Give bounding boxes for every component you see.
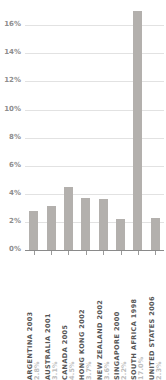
category-label: NEW ZEALAND 2002 <box>96 300 104 380</box>
x-axis-column: 3.1%AUSTRALIA 2001 <box>42 251 59 380</box>
category-label: AUSTRALIA 2001 <box>44 313 52 380</box>
x-tick-mark <box>103 251 104 255</box>
y-tick-label: 16% <box>0 21 21 28</box>
x-axis-column: 3.7%HONG KONG 2002 <box>77 251 94 380</box>
category-label: HONG KONG 2002 <box>78 309 86 380</box>
x-axis-column: 2.8%ARGENTINA 2003 <box>25 251 42 380</box>
gridline <box>25 81 164 82</box>
y-tick-label: 12% <box>0 77 21 84</box>
x-axis-column: 2.3%UNITED STATES 2006 <box>147 251 164 380</box>
x-axis-labels: 2.8%ARGENTINA 20033.1%AUSTRALIA 20014.5%… <box>25 251 164 380</box>
bar <box>99 199 108 250</box>
y-tick-label: 0% <box>0 246 21 253</box>
x-tick-mark <box>51 251 52 255</box>
category-label: SOUTH AFRICA 1998 <box>130 299 138 380</box>
bar-value-label: 4.5% <box>68 361 76 380</box>
bar <box>64 187 73 250</box>
y-tick-label: 6% <box>0 162 21 169</box>
category-label: SINGAPORE 2000 <box>113 311 121 380</box>
x-axis-column: 4.5%CANADA 2005 <box>60 251 77 380</box>
x-tick-mark <box>86 251 87 255</box>
bar-value-label: 2.2% <box>120 361 128 380</box>
category-label: CANADA 2005 <box>61 325 69 380</box>
bar <box>29 211 38 250</box>
x-tick-mark <box>121 251 122 255</box>
x-axis-column: 2.2%SINGAPORE 2000 <box>112 251 129 380</box>
y-tick-label: 8% <box>0 134 21 141</box>
bar <box>81 198 90 250</box>
x-tick-mark <box>155 251 156 255</box>
bar-value-label: 2.3% <box>155 361 163 380</box>
x-axis-column: 17.0%SOUTH AFRICA 1998 <box>129 251 146 380</box>
y-tick-label: 2% <box>0 218 21 225</box>
bar <box>133 11 142 250</box>
gridline <box>25 138 164 139</box>
bar <box>116 219 125 250</box>
gridline <box>25 25 164 26</box>
y-tick-label: 10% <box>0 106 21 113</box>
x-tick-mark <box>138 251 139 255</box>
gridline <box>25 166 164 167</box>
bar-value-label: 3.7% <box>85 361 93 380</box>
y-tick-label: 4% <box>0 190 21 197</box>
bar <box>151 218 160 250</box>
x-axis-column: 3.6%NEW ZEALAND 2002 <box>95 251 112 380</box>
bar-value-label: 2.8% <box>33 361 41 380</box>
category-label: UNITED STATES 2006 <box>148 296 156 380</box>
gridline <box>25 53 164 54</box>
gridline <box>25 110 164 111</box>
gridline <box>25 194 164 195</box>
bar-chart: 0%2%4%6%8%10%12%14%16% 2.8%ARGENTINA 200… <box>0 0 166 380</box>
y-tick-label: 14% <box>0 49 21 56</box>
category-label: ARGENTINA 2003 <box>26 311 34 380</box>
bar-value-label: 17.0% <box>137 356 145 380</box>
x-tick-mark <box>68 251 69 255</box>
bar <box>47 206 56 250</box>
plot-area <box>25 0 164 250</box>
x-tick-mark <box>34 251 35 255</box>
